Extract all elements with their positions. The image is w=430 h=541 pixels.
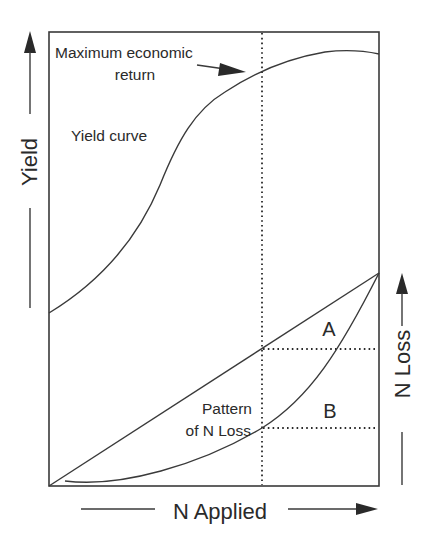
arrow-right-icon: [356, 503, 378, 515]
arrow-up-icon: [24, 31, 36, 53]
max-return-label-line2: return: [115, 66, 156, 83]
arrow-up-icon: [396, 273, 408, 294]
linear-n-loss-line: [49, 273, 379, 486]
n-loss-axis-label: N Loss: [390, 330, 415, 398]
region-a-label: A: [322, 318, 336, 340]
pattern-label-line1: Pattern: [202, 400, 252, 417]
n-applied-axis-label: N Applied: [173, 499, 267, 524]
yield-axis-label: Yield: [17, 138, 42, 186]
n-loss-pattern-curve: [65, 273, 379, 482]
yield-curve-label: Yield curve: [71, 127, 147, 144]
arrow-right-icon: [218, 63, 246, 76]
region-b-label: B: [323, 400, 336, 422]
max-return-label-line1: Maximum economic: [55, 44, 193, 61]
pattern-label-line2: of N Loss: [186, 422, 252, 439]
yield-n-loss-diagram: Maximum economic return Yield curve Patt…: [0, 0, 430, 541]
yield-curve: [49, 51, 379, 313]
